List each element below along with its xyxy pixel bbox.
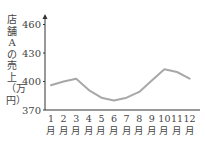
x-tick-label: 8 — [136, 113, 142, 124]
y-tick-label: 400 — [22, 76, 41, 87]
x-tick-label: 12 — [184, 113, 196, 124]
x-tick-unit: 月 — [147, 125, 157, 136]
x-tick-label: 7 — [124, 113, 130, 124]
x-tick-label: 5 — [98, 113, 104, 124]
x-tick-label: 11 — [171, 113, 183, 124]
x-tick-unit: 月 — [122, 125, 132, 136]
x-tick-unit: 月 — [96, 125, 106, 136]
x-tick-unit: 月 — [185, 125, 195, 136]
sales-line — [51, 69, 190, 100]
y-tick-label: 370 — [22, 105, 41, 116]
x-tick-unit: 月 — [109, 125, 119, 136]
x-tick-unit: 月 — [134, 125, 144, 136]
x-tick-label: 6 — [111, 113, 117, 124]
y-tick-label: 460 — [22, 19, 41, 30]
line-chart: 3704004304601月2月3月4月5月6月7月8月9月10月11月12月 — [0, 0, 206, 148]
y-tick-label: 430 — [22, 48, 41, 59]
y-axis-arrow-icon — [43, 14, 48, 19]
x-tick-unit: 月 — [172, 125, 182, 136]
x-tick-label: 9 — [149, 113, 155, 124]
x-tick-unit: 月 — [84, 125, 94, 136]
x-tick-unit: 月 — [159, 125, 169, 136]
x-tick-label: 1 — [48, 113, 54, 124]
x-tick-label: 3 — [73, 113, 79, 124]
x-tick-label: 2 — [61, 113, 67, 124]
x-tick-label: 10 — [158, 113, 170, 124]
x-tick-unit: 月 — [59, 125, 69, 136]
x-tick-label: 4 — [86, 113, 92, 124]
x-tick-unit: 月 — [46, 125, 56, 136]
x-tick-unit: 月 — [71, 125, 81, 136]
